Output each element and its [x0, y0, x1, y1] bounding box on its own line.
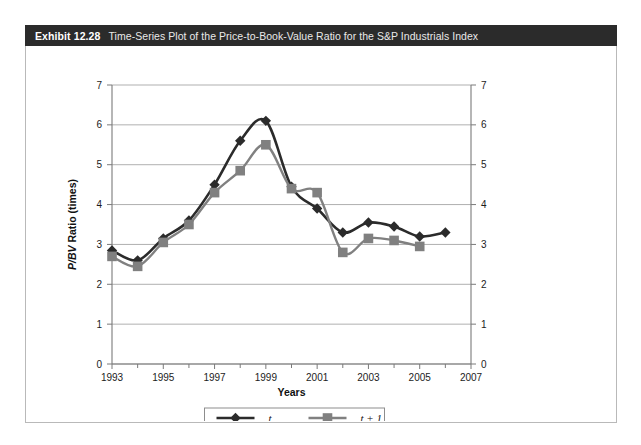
data-point-marker — [210, 188, 220, 198]
exhibit-title: Time-Series Plot of the Price-to-Book-Va… — [109, 30, 479, 42]
data-point-marker — [312, 188, 322, 198]
x-tick-label-2003: 2003 — [357, 372, 380, 383]
axes-group — [112, 85, 471, 364]
data-point-marker — [261, 140, 271, 150]
y-axis-left-ticks: 01234567 — [96, 80, 112, 370]
legend-marker-square — [323, 413, 333, 421]
y-tick-label-right-2: 2 — [481, 279, 487, 290]
y-tick-label-left-3: 3 — [96, 239, 102, 250]
data-point-marker — [107, 252, 117, 262]
y-tick-label-right-5: 5 — [481, 159, 487, 170]
price-to-book-line-chart: 01234567 01234567 1993199519971999200120… — [26, 46, 616, 421]
series-t — [107, 116, 451, 266]
data-point-marker — [158, 238, 168, 248]
y-axis-right-ticks: 01234567 — [471, 80, 487, 370]
y-tick-label-right-3: 3 — [481, 239, 487, 250]
data-point-marker — [389, 221, 399, 231]
series-line-t-plus-1 — [112, 144, 420, 266]
exhibit-header-bar: Exhibit 12.28 Time-Series Plot of the Pr… — [25, 25, 617, 46]
x-tick-label-1997: 1997 — [203, 372, 226, 383]
y-axis-title: P/BV Ratio (times) — [66, 179, 78, 270]
x-tick-label-1993: 1993 — [101, 372, 124, 383]
data-point-marker — [415, 242, 425, 252]
data-point-marker — [287, 184, 297, 194]
y-tick-label-left-7: 7 — [96, 80, 102, 91]
gridlines-group — [112, 85, 471, 364]
chart-legend: tt + 1 — [205, 408, 385, 421]
y-tick-label-right-4: 4 — [481, 199, 487, 210]
x-tick-label-2001: 2001 — [306, 372, 329, 383]
exhibit-container: Exhibit 12.28 Time-Series Plot of the Pr… — [25, 25, 617, 423]
chart-panel: 01234567 01234567 1993199519971999200120… — [25, 46, 617, 423]
x-tick-label-1999: 1999 — [255, 372, 278, 383]
y-tick-label-left-2: 2 — [96, 279, 102, 290]
exhibit-number: Exhibit 12.28 — [35, 30, 101, 42]
y-tick-label-right-0: 0 — [481, 359, 487, 370]
y-tick-label-left-1: 1 — [96, 319, 102, 330]
y-tick-label-left-0: 0 — [96, 359, 102, 370]
data-point-marker — [184, 220, 194, 230]
x-tick-label-2005: 2005 — [409, 372, 432, 383]
y-tick-label-right-1: 1 — [481, 319, 487, 330]
data-point-marker — [235, 166, 245, 176]
data-point-marker — [440, 227, 450, 237]
plot-area: 01234567 01234567 1993199519971999200120… — [26, 46, 616, 421]
x-axis-title: Years — [277, 386, 305, 398]
data-point-marker — [364, 234, 374, 244]
y-tick-label-left-6: 6 — [96, 119, 102, 130]
x-tick-label-2007: 2007 — [460, 372, 483, 383]
data-point-marker — [133, 262, 143, 272]
data-series-group — [107, 116, 451, 271]
data-point-marker — [363, 217, 373, 227]
y-tick-label-left-4: 4 — [96, 199, 102, 210]
series-t-plus-1 — [107, 140, 424, 271]
data-point-marker — [338, 227, 348, 237]
y-tick-label-right-7: 7 — [481, 80, 487, 91]
data-point-marker — [338, 248, 348, 258]
y-tick-label-left-5: 5 — [96, 159, 102, 170]
legend-label: t + 1 — [361, 412, 382, 421]
y-tick-label-right-6: 6 — [481, 119, 487, 130]
x-axis-ticks: 19931995199719992001200320052007 — [101, 364, 483, 383]
data-point-marker — [415, 231, 425, 241]
data-point-marker — [389, 236, 399, 246]
x-tick-label-1995: 1995 — [152, 372, 175, 383]
